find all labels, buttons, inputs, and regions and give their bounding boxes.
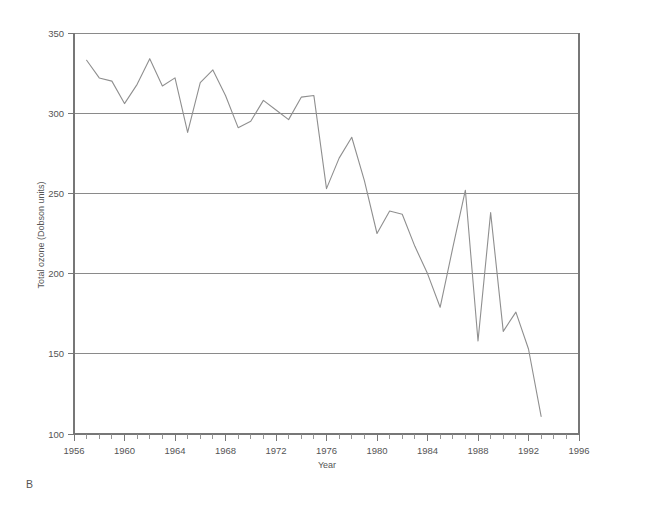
x-axis-title: Year bbox=[318, 460, 336, 470]
x-tick-label: 1992 bbox=[518, 445, 539, 456]
x-axis-tick-marks bbox=[74, 434, 579, 441]
y-tick-label: 250 bbox=[48, 188, 64, 199]
y-axis-title: Total ozone (Dobson units) bbox=[36, 181, 46, 288]
data-series-group bbox=[87, 59, 542, 417]
series-total-ozone bbox=[87, 59, 542, 417]
x-tick-label: 1960 bbox=[114, 445, 135, 456]
x-tick-label: 1964 bbox=[164, 445, 185, 456]
total-ozone-line-chart: 100150200250300350 195619601964196819721… bbox=[0, 0, 645, 509]
y-tick-label: 100 bbox=[48, 429, 64, 440]
y-tick-label: 350 bbox=[48, 28, 64, 39]
x-tick-label: 1968 bbox=[215, 445, 236, 456]
y-axis-tick-labels: 100150200250300350 bbox=[48, 28, 64, 440]
x-axis-tick-labels: 1956196019641968197219761980198419881992… bbox=[63, 445, 589, 456]
x-tick-label: 1984 bbox=[417, 445, 438, 456]
y-tick-label: 150 bbox=[48, 348, 64, 359]
x-tick-label: 1980 bbox=[366, 445, 387, 456]
x-tick-label: 1956 bbox=[63, 445, 84, 456]
y-axis-tick-marks bbox=[68, 33, 74, 434]
ozone-figure: 100150200250300350 195619601964196819721… bbox=[0, 0, 645, 509]
horizontal-gridlines bbox=[74, 33, 579, 354]
x-tick-label: 1996 bbox=[568, 445, 589, 456]
y-tick-label: 200 bbox=[48, 268, 64, 279]
x-tick-label: 1976 bbox=[316, 445, 337, 456]
panel-label: B bbox=[26, 478, 33, 490]
x-tick-label: 1988 bbox=[467, 445, 488, 456]
y-tick-label: 300 bbox=[48, 108, 64, 119]
x-tick-label: 1972 bbox=[265, 445, 286, 456]
